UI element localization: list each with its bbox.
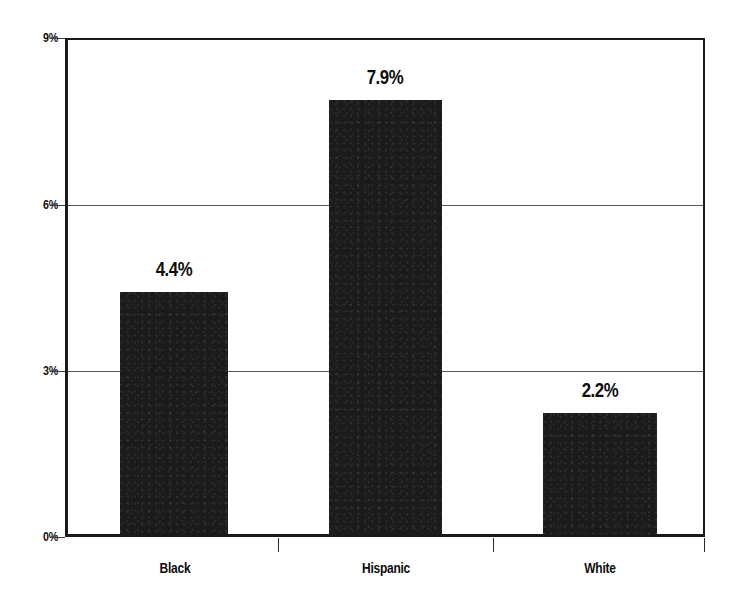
- value-label-hispanic: 7.9%: [339, 66, 430, 87]
- x-tick-mark-2: [493, 538, 494, 552]
- y-tick-mark-6: [52, 205, 65, 206]
- y-tick-mark-9: [52, 38, 65, 39]
- bar-chart-figure: 9% 6% 3% 0% 4.4% 7.9% 2.2% Black Hispani…: [0, 0, 734, 600]
- y-tick-mark-0: [52, 537, 65, 538]
- x-tick-mark-3: [704, 538, 705, 552]
- x-tick-mark-1: [278, 538, 279, 552]
- y-tick-mark-3: [52, 371, 65, 372]
- bar-hispanic: [329, 100, 442, 534]
- plot-area: [65, 38, 705, 537]
- x-category-label-hispanic: Hispanic: [338, 560, 434, 575]
- y-axis-labels: 9% 6% 3% 0%: [0, 0, 58, 600]
- value-label-white: 2.2%: [554, 379, 645, 400]
- bar-black: [120, 292, 228, 534]
- value-label-black: 4.4%: [128, 258, 219, 279]
- x-category-label-white: White: [552, 560, 648, 575]
- bar-white: [543, 413, 657, 534]
- x-category-label-black: Black: [127, 560, 223, 575]
